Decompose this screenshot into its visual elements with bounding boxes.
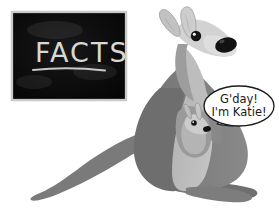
blackboard-heading: FACTS	[35, 37, 129, 68]
blackboard-group: FACTS	[12, 12, 129, 100]
joey-eye	[191, 120, 197, 126]
illustration-scene: FACTS	[0, 0, 279, 214]
kangaroo-eye	[191, 31, 201, 41]
kangaroo-ear-left	[159, 9, 180, 36]
speech-bubble-line1: G'day!	[220, 92, 258, 106]
joey-eye-highlight	[192, 121, 194, 123]
kangaroo-eye-highlight	[193, 33, 196, 36]
kangaroo-facts-illustration: FACTS	[0, 0, 279, 214]
speech-bubble-line2: I'm Katie!	[211, 105, 266, 119]
speech-bubble-group: G'day! I'm Katie!	[204, 86, 274, 126]
